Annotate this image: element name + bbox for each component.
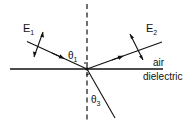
theta3-label: θ3 (91, 94, 101, 107)
dielectric-label: dielectric (143, 71, 182, 82)
reflected-ray (87, 42, 162, 69)
e2-label: E2 (146, 22, 157, 36)
incidence-point (85, 67, 88, 70)
e1-label: E1 (23, 22, 34, 36)
air-label: air (153, 57, 165, 68)
e2-field-arrow-icon (130, 34, 143, 60)
incident-ray (27, 42, 87, 70)
reflection-refraction-diagram: E1 θ1 E2 air dielectric θ3 (0, 0, 195, 127)
